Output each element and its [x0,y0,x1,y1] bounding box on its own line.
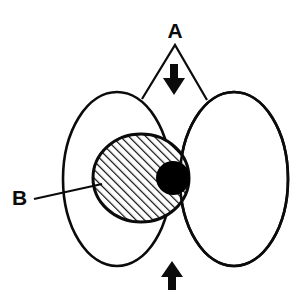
diagram-svg: A B [0,0,304,296]
label-a-text: A [167,19,182,42]
label-b-text: B [12,186,27,209]
figure-container: A B [0,0,304,296]
solid-nucleus-circle [156,161,190,195]
